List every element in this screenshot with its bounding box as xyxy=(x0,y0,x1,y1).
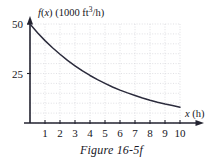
figure-container: 12345678910 2550 f(x) (1000 ft3/h) x (h)… xyxy=(0,0,223,165)
y-axis-tick-label: 25 xyxy=(12,68,24,80)
x-axis-arrow xyxy=(196,120,205,126)
y-axis-tick-labels: 2550 xyxy=(12,18,24,80)
x-axis-title: x (h) xyxy=(184,108,205,120)
x-axis-tick-labels: 12345678910 xyxy=(42,127,186,139)
chart-plot: 12345678910 2550 f(x) (1000 ft3/h) x (h) xyxy=(0,0,223,165)
y-axis-tick-label: 50 xyxy=(12,18,24,30)
x-axis-tick-label: 4 xyxy=(87,127,93,139)
grid-lines xyxy=(30,24,180,123)
x-axis-tick-label: 7 xyxy=(132,127,138,139)
x-axis-tick-label: 1 xyxy=(42,127,48,139)
x-axis-tick-label: 2 xyxy=(57,127,63,139)
y-axis-arrow xyxy=(27,16,33,25)
x-axis-tick-label: 3 xyxy=(72,127,78,139)
x-axis-tick-label: 6 xyxy=(117,127,123,139)
y-axis-title: f(x) (1000 ft3/h) xyxy=(38,5,105,20)
axes xyxy=(24,16,204,126)
x-axis-tick-label: 10 xyxy=(175,127,187,139)
figure-caption: Figure 16-5f xyxy=(0,143,223,158)
x-axis-tick-label: 5 xyxy=(102,127,108,139)
x-axis-tick-label: 8 xyxy=(147,127,153,139)
x-axis-tick-label: 9 xyxy=(162,127,168,139)
